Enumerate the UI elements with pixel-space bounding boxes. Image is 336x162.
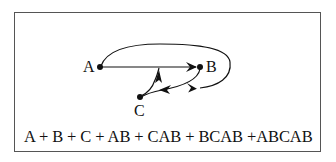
- path-formula: A + B + C + AB + CAB + BCAB +ABCAB: [24, 128, 313, 146]
- arrowhead-icon: [185, 83, 197, 94]
- node-a-dot: [97, 64, 103, 70]
- node-a-label: A: [83, 59, 95, 75]
- edge-a-to-b: [100, 62, 197, 72]
- edge-b-to-c: [141, 69, 200, 97]
- node-c-label: C: [134, 103, 145, 119]
- node-b-label: B: [206, 59, 217, 75]
- arrowhead-icon: [159, 85, 171, 94]
- edge-c-to-ab: [141, 68, 162, 96]
- node-b-dot: [197, 64, 203, 70]
- node-c-dot: [137, 94, 143, 100]
